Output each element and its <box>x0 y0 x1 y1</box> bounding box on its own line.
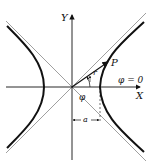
y-axis-label: Y <box>61 12 69 23</box>
distance-a-label: a <box>83 115 88 124</box>
point-p-label: P <box>110 57 118 68</box>
angle-arc <box>87 77 90 87</box>
angle-label: φ <box>79 92 86 102</box>
angle-zero-label: φ = 0 <box>118 75 144 85</box>
hyperbola-diagram: Y X P r φ φ = 0 a <box>0 0 151 165</box>
x-axis-label: X <box>135 90 144 101</box>
asymptote-negative <box>6 21 146 161</box>
